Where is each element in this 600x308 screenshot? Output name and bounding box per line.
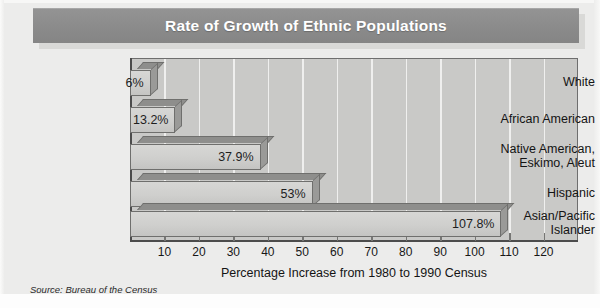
chart-page: Rate of Growth of Ethnic Populations 102…: [0, 0, 600, 308]
x-tick-label: 100: [458, 245, 492, 259]
category-label: Asian/PacificIslander: [474, 209, 600, 237]
bar-value-label: 53%: [281, 187, 312, 201]
x-tick-label: 30: [216, 245, 250, 259]
chart-title: Rate of Growth of Ethnic Populations: [165, 17, 447, 35]
bar-top-face: [137, 173, 326, 180]
bar-side-face: [151, 63, 158, 95]
x-axis-title: Percentage Increase from 1980 to 1990 Ce…: [130, 266, 578, 280]
bar: 53%: [130, 173, 321, 207]
category-label: African American: [474, 112, 600, 126]
bar-side-face: [261, 137, 268, 169]
bar-value-label: 13.2%: [133, 113, 174, 127]
category-label: Native American,Eskimo, Aleut: [474, 142, 600, 170]
bar-front-face: 13.2%: [130, 107, 175, 133]
x-tick-label: 60: [320, 245, 354, 259]
bar-top-face: [137, 136, 274, 143]
bar-front-face: 37.9%: [130, 144, 261, 170]
x-axis-line: [130, 240, 578, 242]
category-label: Hispanic: [474, 186, 600, 200]
page-edge-bottom: [0, 294, 600, 308]
bar-front-face: 107.8%: [130, 211, 501, 237]
x-tick-label: 20: [182, 245, 216, 259]
bar: 37.9%: [130, 136, 269, 170]
page-edge-top: [0, 0, 600, 3]
x-tick-label: 50: [285, 245, 319, 259]
x-tick-label: 90: [423, 245, 457, 259]
bar: 6%: [130, 62, 159, 96]
source-note: Source: Bureau of the Census: [30, 284, 157, 295]
x-tick-label: 120: [527, 245, 561, 259]
x-tick-label: 70: [354, 245, 388, 259]
bar-side-face: [175, 100, 182, 132]
bar-front-face: 6%: [130, 70, 151, 96]
x-tick-label: 40: [251, 245, 285, 259]
bar: 107.8%: [130, 203, 509, 237]
category-label: White: [474, 75, 600, 89]
bar-value-label: 37.9%: [218, 150, 259, 164]
title-banner: Rate of Growth of Ethnic Populations: [33, 8, 579, 43]
bar-side-face: [313, 174, 320, 206]
bar-value-label: 6%: [126, 76, 150, 90]
x-tick-label: 10: [147, 245, 181, 259]
x-tick-label: 110: [492, 245, 526, 259]
bar: 13.2%: [130, 99, 183, 133]
x-tick-label: 80: [389, 245, 423, 259]
bar-top-face: [137, 203, 515, 210]
page-edge-left: [0, 0, 4, 308]
